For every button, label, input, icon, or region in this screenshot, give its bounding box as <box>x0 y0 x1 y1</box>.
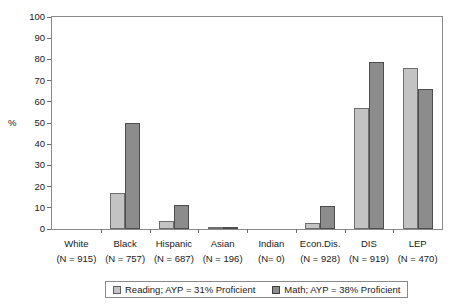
bar-group-dis <box>345 17 394 229</box>
bar-pair <box>345 17 394 229</box>
plot-area <box>52 17 442 229</box>
x-tick-mark <box>198 229 199 233</box>
legend-label: Reading; AYP = 31% Proficient <box>125 284 255 295</box>
bar-pair <box>52 17 101 229</box>
x-label-econ-dis-: Econ.Dis.(N = 928) <box>296 236 345 266</box>
bar-reading <box>110 193 125 229</box>
x-label-black: Black(N = 757) <box>101 236 150 266</box>
x-label-lep: LEP(N = 470) <box>393 236 442 266</box>
legend-item-reading: Reading; AYP = 31% Proficient <box>113 284 255 295</box>
bar-reading <box>403 68 418 229</box>
legend-swatch-reading-icon <box>113 286 121 294</box>
y-tick-70: 70 <box>3 75 51 87</box>
x-tick-mark <box>101 229 102 233</box>
y-tick-mark <box>47 101 51 102</box>
x-label-count: (N= 0) <box>247 251 296 266</box>
x-label-name: Black <box>101 236 150 251</box>
bar-group-asian <box>198 17 247 229</box>
x-label-hispanic: Hispanic(N = 687) <box>150 236 199 266</box>
bar-group-hispanic <box>150 17 199 229</box>
y-tick-40: 40 <box>3 138 51 150</box>
bar-pair <box>296 17 345 229</box>
y-tick-mark <box>47 59 51 60</box>
y-tick-10: 10 <box>3 202 51 214</box>
y-axis-title: % <box>8 117 16 128</box>
legend-item-math: Math; AYP = 38% Proficient <box>272 284 400 295</box>
y-tick-60: 60 <box>3 96 51 108</box>
x-label-count: (N = 196) <box>198 251 247 266</box>
bar-group-lep <box>393 17 442 229</box>
bar-group-econ-dis- <box>296 17 345 229</box>
y-tick-80: 80 <box>3 53 51 65</box>
y-tick-90: 90 <box>3 32 51 44</box>
y-tick-mark <box>47 229 51 230</box>
bar-reading <box>159 221 174 229</box>
x-label-count: (N = 915) <box>52 251 101 266</box>
legend-swatch-math-icon <box>272 286 280 294</box>
bar-math <box>125 123 140 229</box>
y-tick-20: 20 <box>3 181 51 193</box>
x-label-indian: Indian(N= 0) <box>247 236 296 266</box>
x-label-name: Hispanic <box>150 236 199 251</box>
y-tick-mark <box>47 80 51 81</box>
x-tick-mark <box>150 229 151 233</box>
x-tick-mark <box>247 229 248 233</box>
y-tick-mark <box>47 17 51 18</box>
x-tick-mark <box>345 229 346 233</box>
y-tick-mark <box>47 165 51 166</box>
x-tick-mark <box>296 229 297 233</box>
bar-pair <box>101 17 150 229</box>
bar-reading <box>354 108 369 229</box>
x-tick-mark <box>393 229 394 233</box>
bar-pair <box>393 17 442 229</box>
y-tick-mark <box>47 207 51 208</box>
x-label-count: (N = 687) <box>150 251 199 266</box>
x-label-count: (N = 919) <box>345 251 394 266</box>
y-tick-mark <box>47 144 51 145</box>
x-label-count: (N = 928) <box>296 251 345 266</box>
chart-legend: Reading; AYP = 31% ProficientMath; AYP =… <box>105 281 408 298</box>
y-tick-mark <box>47 186 51 187</box>
x-axis-labels: White(N = 915)Black(N = 757)Hispanic(N =… <box>52 236 442 270</box>
y-tick-100: 100 <box>3 11 51 23</box>
x-label-count: (N = 757) <box>101 251 150 266</box>
x-label-white: White(N = 915) <box>52 236 101 266</box>
y-tick-0: 0 <box>3 223 51 235</box>
x-label-dis: DIS(N = 919) <box>345 236 394 266</box>
x-axis-ticks <box>52 229 442 234</box>
bar-pair <box>247 17 296 229</box>
bar-math <box>320 206 335 229</box>
x-label-asian: Asian(N = 196) <box>198 236 247 266</box>
y-tick-30: 30 <box>3 159 51 171</box>
x-label-name: Econ.Dis. <box>296 236 345 251</box>
bar-group-black <box>101 17 150 229</box>
x-label-name: White <box>52 236 101 251</box>
y-tick-mark <box>47 38 51 39</box>
y-tick-mark <box>47 123 51 124</box>
bar-pair <box>150 17 199 229</box>
bar-pair <box>198 17 247 229</box>
bar-group-indian <box>247 17 296 229</box>
x-label-name: Indian <box>247 236 296 251</box>
bar-group-white <box>52 17 101 229</box>
x-label-name: LEP <box>393 236 442 251</box>
bar-math <box>174 205 189 229</box>
x-label-name: DIS <box>345 236 394 251</box>
bar-chart-figure: 1009080706050403020100 % White(N = 915)B… <box>0 0 457 308</box>
x-label-name: Asian <box>198 236 247 251</box>
legend-label: Math; AYP = 38% Proficient <box>284 284 400 295</box>
bar-math <box>369 62 384 229</box>
x-label-count: (N = 470) <box>393 251 442 266</box>
bar-math <box>418 89 433 229</box>
